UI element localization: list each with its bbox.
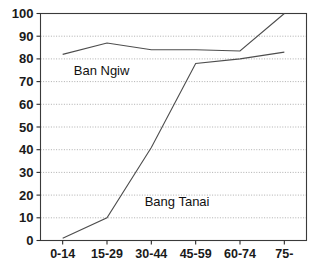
y-axis-tick-label: 100	[12, 6, 34, 21]
x-axis-tick-label: 75-	[275, 247, 293, 261]
y-axis-tick-label: 40	[19, 142, 33, 157]
y-axis-tick-label: 60	[19, 97, 33, 112]
series-line	[63, 14, 285, 55]
x-axis-ticks: 0-1415-2930-4445-5960-7475-	[50, 241, 293, 261]
x-axis-tick-label: 0-14	[50, 247, 75, 261]
x-axis-tick-label: 30-44	[135, 247, 167, 261]
y-axis-ticks: 0102030405060708090100	[12, 6, 41, 248]
chart-canvas: 0102030405060708090100 0-1415-2930-4445-…	[0, 0, 326, 268]
series-annotations: Ban NgiwBang Tanai	[74, 63, 210, 210]
series-line	[63, 52, 285, 238]
x-axis-tick-label: 45-59	[180, 247, 212, 261]
y-axis-tick-label: 80	[19, 51, 33, 66]
line-chart: 0102030405060708090100 0-1415-2930-4445-…	[0, 0, 326, 268]
y-axis-tick-label: 50	[19, 120, 33, 135]
y-axis-tick-label: 30	[19, 165, 33, 180]
x-axis-tick-label: 15-29	[91, 247, 123, 261]
y-axis-tick-label: 90	[19, 29, 33, 44]
y-axis-tick-label: 20	[19, 188, 33, 203]
y-axis-tick-label: 10	[19, 210, 33, 225]
x-axis-tick-label: 60-74	[224, 247, 256, 261]
y-axis-tick-label: 70	[19, 74, 33, 89]
series-label: Ban Ngiw	[74, 63, 130, 78]
series-label: Bang Tanai	[145, 194, 210, 209]
y-axis-tick-label: 0	[26, 233, 33, 248]
